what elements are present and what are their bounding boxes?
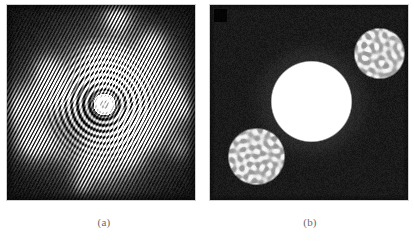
interferogram-canvas	[7, 5, 195, 200]
panel-a-image	[6, 4, 196, 201]
caption-panel-a: (a)	[74, 216, 134, 228]
panel-b-image	[209, 4, 409, 201]
caption-panel-b: (b)	[280, 216, 340, 228]
figure-root: (a) (b)	[0, 0, 414, 243]
pattern-field-canvas	[210, 5, 408, 200]
